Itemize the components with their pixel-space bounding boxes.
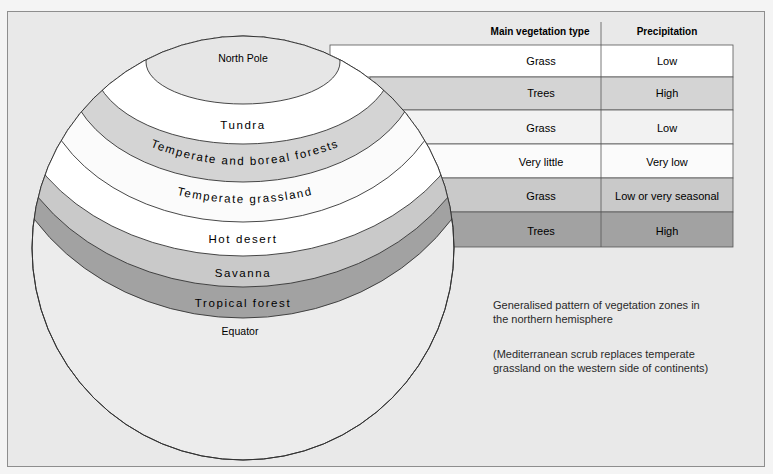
caption-line-1: Generalised pattern of vegetation zones … xyxy=(493,298,700,312)
table-header-precipitation: Precipitation xyxy=(637,26,698,37)
table-header-vegetation: Main vegetation type xyxy=(491,26,590,37)
diagram-caption: Generalised pattern of vegetation zones … xyxy=(493,298,700,326)
table-cell-precipitation-1: Low xyxy=(657,55,677,67)
table-cell-precipitation-4: Very low xyxy=(646,156,688,168)
table-cell-vegetation-6: Trees xyxy=(527,225,555,237)
table-cell-vegetation-5: Grass xyxy=(526,190,556,202)
equator-label: Equator xyxy=(222,325,259,337)
table-cell-precipitation-3: Low xyxy=(657,122,677,134)
table-cell-precipitation-6: High xyxy=(656,225,679,237)
table-cell-vegetation-1: Grass xyxy=(526,55,556,67)
band-label-tundra: Tundra xyxy=(220,119,266,131)
north-pole-label: North Pole xyxy=(218,52,268,64)
diagram-note: (Mediterranean scrub replaces temperate … xyxy=(493,347,708,375)
table-cell-vegetation-3: Grass xyxy=(526,122,556,134)
band-label-hot-desert: Hot desert xyxy=(208,233,277,245)
table-cell-vegetation-2: Trees xyxy=(527,87,555,99)
band-label-tropical-forest: Tropical forest xyxy=(195,297,291,309)
note-line-2: grassland on the western side of contine… xyxy=(493,361,708,375)
vegetation-zones-diagram: North Pole Tundra Temperate and boreal f… xyxy=(0,0,773,474)
table-cell-precipitation-2: High xyxy=(656,87,679,99)
table-cell-precipitation-5: Low or very seasonal xyxy=(615,190,719,202)
band-label-savanna: Savanna xyxy=(215,267,272,279)
table-row-fill-3 xyxy=(400,110,733,144)
table-row-fill-6 xyxy=(450,212,733,247)
caption-line-2: the northern hemisphere xyxy=(493,312,700,326)
note-line-1: (Mediterranean scrub replaces temperate xyxy=(493,347,708,361)
table-cell-vegetation-4: Very little xyxy=(519,156,564,168)
